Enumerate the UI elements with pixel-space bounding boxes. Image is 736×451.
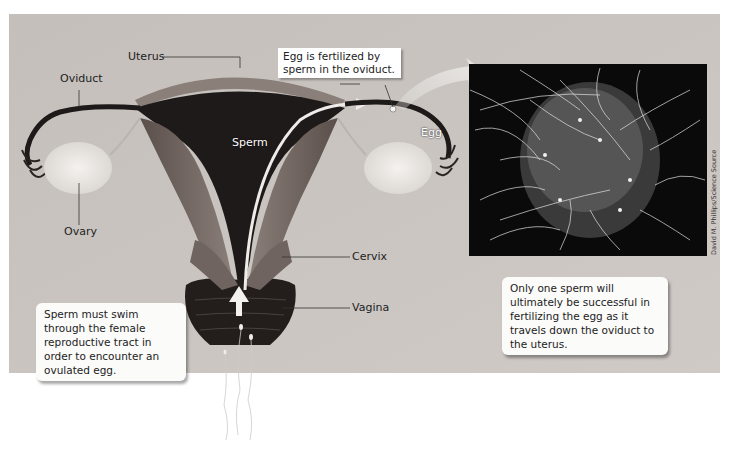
swim-note-callout: Sperm must swim through the female repro… (36, 303, 186, 381)
vagina-label: Vagina (352, 301, 389, 314)
uterus-label: Uterus (128, 50, 164, 63)
oviduct-label: Oviduct (60, 72, 103, 85)
swim-note-text: Sperm must swim through the female repro… (44, 308, 159, 376)
sperm-label: Sperm (232, 136, 268, 149)
one-sperm-callout: Only one sperm will ultimately be succes… (502, 277, 668, 355)
fertilized-callout: Egg is fertilized by sperm in the oviduc… (278, 48, 401, 78)
fertilized-callout-text: Egg is fertilized by sperm in the oviduc… (283, 50, 395, 75)
egg-label: Egg (421, 126, 442, 139)
ovary-label: Ovary (64, 225, 97, 238)
cervix-label: Cervix (352, 250, 387, 263)
photo-credit: David M. Phillips/Science Source (710, 150, 718, 255)
one-sperm-text: Only one sperm will ultimately be succes… (510, 282, 654, 350)
